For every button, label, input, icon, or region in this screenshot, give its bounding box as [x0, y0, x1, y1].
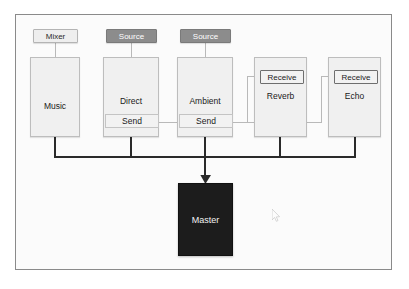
receive-label-reverb: Receive	[268, 73, 297, 82]
mouse-cursor	[272, 209, 281, 222]
receive-box-echo[interactable]: Receive	[334, 70, 378, 84]
receive-box-reverb[interactable]: Receive	[260, 70, 304, 84]
bus-drop-echo	[354, 137, 356, 157]
header-label-source-direct: Source	[119, 32, 144, 41]
track-reverb[interactable]: Receive Reverb	[254, 57, 307, 137]
bus-drop-reverb	[279, 137, 281, 157]
track-label-direct: Direct	[104, 96, 158, 106]
connector-source-to-direct	[131, 43, 132, 57]
header-label-mixer: Mixer	[46, 32, 66, 41]
track-label-music: Music	[31, 101, 79, 111]
send-box-ambient[interactable]: Send	[179, 114, 233, 128]
header-label-source-ambient: Source	[193, 32, 218, 41]
header-box-mixer[interactable]: Mixer	[33, 29, 78, 43]
send-label-ambient: Send	[196, 116, 216, 126]
connector-mixer-to-music	[55, 43, 56, 57]
master-box[interactable]: Master	[178, 183, 233, 256]
bus-drop-direct	[130, 137, 132, 157]
header-box-source-ambient[interactable]: Source	[180, 29, 231, 43]
send-label-direct: Send	[122, 116, 142, 126]
bus-drop-music	[54, 137, 56, 157]
track-echo[interactable]: Receive Echo	[328, 57, 381, 137]
header-box-source-direct[interactable]: Source	[106, 29, 157, 43]
track-direct[interactable]: Direct Send	[103, 57, 159, 137]
track-label-reverb: Reverb	[255, 91, 306, 101]
track-music[interactable]: Music	[30, 57, 80, 137]
bus-drop-ambient	[204, 137, 206, 157]
bus-drop-to-master	[204, 156, 206, 178]
track-label-ambient: Ambient	[178, 96, 232, 106]
track-ambient[interactable]: Ambient Send	[177, 57, 233, 137]
send-line-direct-riser	[247, 76, 248, 122]
send-box-direct[interactable]: Send	[105, 114, 159, 128]
receive-label-echo: Receive	[342, 73, 371, 82]
master-label: Master	[192, 215, 220, 225]
send-line-ambient-riser	[321, 76, 322, 122]
connector-source-to-ambient	[205, 43, 206, 57]
track-label-echo: Echo	[329, 91, 380, 101]
diagram-canvas: Mixer Source Source Music Direct Send Am…	[0, 0, 409, 289]
